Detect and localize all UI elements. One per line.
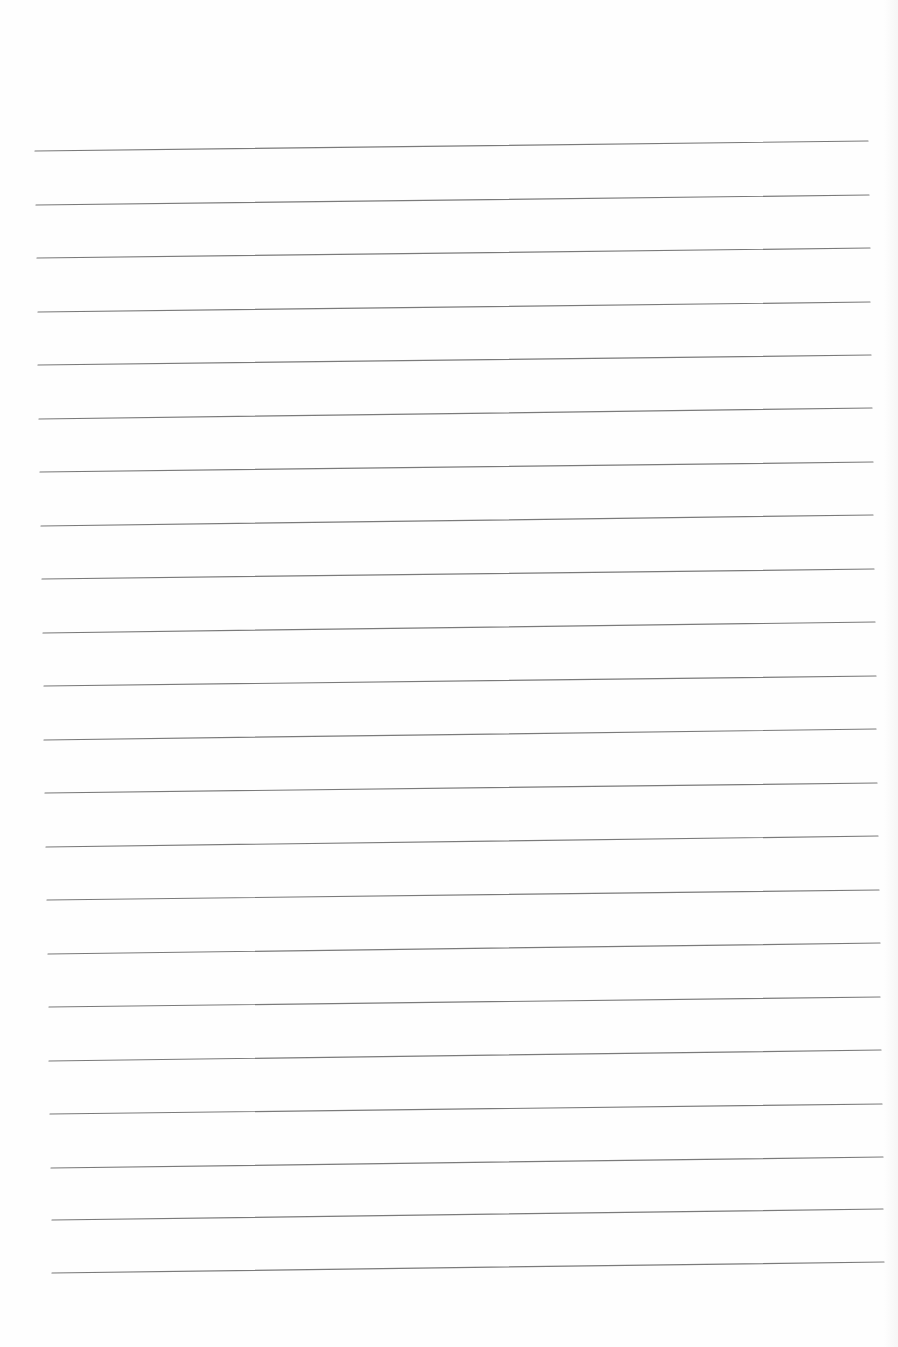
ruled-line-9 bbox=[42, 569, 874, 579]
ruled-lines bbox=[0, 0, 898, 1347]
ruled-line-12 bbox=[44, 729, 876, 740]
ruled-line-15 bbox=[47, 890, 879, 900]
ruled-line-6 bbox=[39, 408, 872, 419]
ruled-line-16 bbox=[48, 943, 880, 954]
lined-paper-page bbox=[0, 0, 898, 1347]
ruled-line-11 bbox=[44, 676, 876, 686]
ruled-line-10 bbox=[43, 622, 875, 633]
ruled-line-20 bbox=[51, 1157, 883, 1168]
ruled-line-8 bbox=[41, 515, 873, 526]
ruled-line-18 bbox=[49, 1050, 881, 1061]
ruled-line-2 bbox=[36, 195, 869, 205]
page-edge-shadow bbox=[884, 0, 898, 1347]
ruled-line-5 bbox=[38, 355, 871, 365]
ruled-line-14 bbox=[46, 836, 878, 847]
ruled-line-4 bbox=[38, 302, 870, 312]
ruled-line-13 bbox=[45, 783, 877, 793]
ruled-line-1 bbox=[35, 141, 868, 151]
ruled-line-3 bbox=[37, 248, 870, 258]
ruled-line-7 bbox=[40, 462, 873, 472]
ruled-line-21 bbox=[52, 1209, 883, 1220]
ruled-line-17 bbox=[49, 997, 880, 1007]
ruled-line-22 bbox=[52, 1262, 884, 1273]
ruled-line-19 bbox=[50, 1104, 882, 1114]
